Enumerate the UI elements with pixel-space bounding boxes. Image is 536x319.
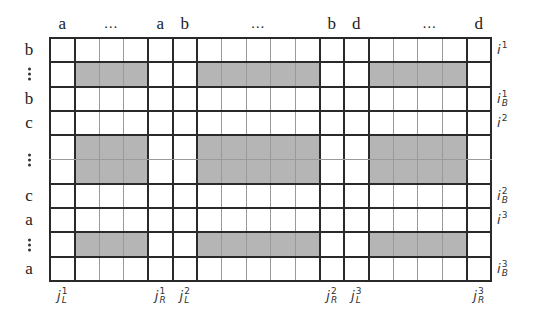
- row-index-label: i1: [497, 41, 507, 59]
- index-scripts: 1B: [502, 90, 508, 108]
- column-index-label: j2R: [326, 287, 337, 305]
- column-index-label: j2L: [180, 287, 190, 305]
- index-subscript: R: [478, 296, 484, 305]
- index-subscript: L: [62, 296, 68, 305]
- index-scripts: 2R: [331, 287, 337, 305]
- index-subscript: [502, 220, 508, 229]
- row-vertical-ellipsis: [26, 236, 32, 253]
- column-index-label: j3R: [473, 287, 484, 305]
- shaded-block: [75, 62, 149, 86]
- index-scripts: 3R: [478, 287, 484, 305]
- index-subscript: R: [331, 296, 337, 305]
- column-index-label: j3L: [351, 287, 361, 305]
- ellipsis-dot: [28, 78, 31, 81]
- ellipsis-dot: [28, 158, 31, 161]
- index-base: j: [155, 288, 159, 303]
- index-scripts: 3B: [502, 260, 508, 278]
- index-subscript: B: [502, 99, 508, 108]
- thick-row-divider: [49, 110, 492, 112]
- ellipsis-dot: [28, 153, 31, 156]
- row-index-label: i1B: [497, 90, 508, 108]
- thick-row-divider: [49, 37, 492, 39]
- index-base: i: [497, 187, 501, 202]
- index-base: i: [497, 260, 501, 275]
- row-vertical-ellipsis: [26, 66, 32, 83]
- index-scripts: 2: [502, 114, 508, 132]
- column-ellipsis-label: …: [251, 14, 266, 34]
- column-index-label: j1R: [155, 287, 166, 305]
- index-subscript: [502, 123, 508, 132]
- column-symbol-label: b: [181, 14, 190, 34]
- thick-row-divider: [49, 280, 492, 282]
- column-symbol-label: d: [352, 14, 361, 34]
- row-symbol-label: c: [25, 114, 33, 132]
- index-subscript: [502, 50, 508, 59]
- index-base: j: [180, 288, 184, 303]
- ellipsis-dot: [28, 163, 31, 166]
- column-symbol-label: a: [156, 14, 164, 34]
- column-index-label: j1L: [57, 287, 67, 305]
- ellipsis-dot: [28, 243, 31, 246]
- block-matrix-diagram: a…ab…bd…d bbccaa i1 i1Bi2 i2Bi3 i3B j1Lj…: [0, 0, 536, 319]
- index-subscript: L: [184, 296, 190, 305]
- ellipsis-dot: [28, 248, 31, 251]
- shaded-block: [197, 232, 320, 256]
- thick-row-divider: [49, 183, 492, 185]
- column-symbol-label: d: [475, 14, 484, 34]
- thick-row-divider: [49, 61, 492, 63]
- index-base: i: [497, 115, 501, 130]
- column-symbol-label: a: [58, 14, 66, 34]
- row-symbol-label: b: [25, 41, 34, 59]
- index-base: i: [497, 212, 501, 227]
- thick-row-divider: [49, 231, 492, 233]
- index-subscript: B: [502, 196, 508, 205]
- index-base: i: [497, 90, 501, 105]
- ellipsis-dot: [28, 238, 31, 241]
- shaded-block: [197, 62, 320, 86]
- row-symbol-label: a: [25, 211, 33, 229]
- index-scripts: 2L: [184, 287, 190, 305]
- index-subscript: B: [502, 269, 508, 278]
- index-base: j: [326, 288, 330, 303]
- index-base: j: [351, 288, 355, 303]
- row-index-label: i3B: [497, 260, 508, 278]
- matrix-grid: [50, 38, 491, 281]
- index-scripts: 1: [502, 41, 508, 59]
- shaded-block: [75, 232, 149, 256]
- row-index-label: i2: [497, 114, 507, 132]
- index-scripts: 1R: [159, 287, 165, 305]
- row-index-label: i3: [497, 211, 507, 229]
- index-scripts: 2B: [502, 187, 508, 205]
- thick-row-divider: [49, 207, 492, 209]
- index-base: j: [57, 288, 61, 303]
- thick-row-divider: [49, 86, 492, 88]
- column-ellipsis-label: …: [422, 14, 437, 34]
- ellipsis-dot: [28, 73, 31, 76]
- ellipsis-dot: [28, 68, 31, 71]
- thick-row-divider: [49, 256, 492, 258]
- row-vertical-ellipsis: [26, 151, 32, 168]
- row-symbol-label: b: [25, 90, 34, 108]
- thick-row-divider: [49, 134, 492, 136]
- thin-row-divider: [49, 159, 492, 160]
- index-scripts: 3L: [356, 287, 362, 305]
- index-scripts: 3: [502, 211, 508, 229]
- index-subscript: L: [356, 296, 362, 305]
- index-scripts: 1L: [62, 287, 68, 305]
- index-base: i: [497, 42, 501, 57]
- row-index-label: i2B: [497, 187, 508, 205]
- row-symbol-label: a: [25, 260, 33, 278]
- column-symbol-label: b: [328, 14, 337, 34]
- row-symbol-label: c: [25, 187, 33, 205]
- index-subscript: R: [159, 296, 165, 305]
- index-base: j: [473, 288, 477, 303]
- column-ellipsis-label: …: [104, 14, 119, 34]
